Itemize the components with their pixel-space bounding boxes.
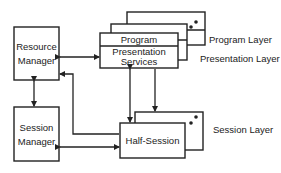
resource-manager-label: Resource Manager	[14, 41, 59, 66]
presentation-layer-label: Presentation Layer	[200, 53, 280, 64]
diagram-canvas	[0, 0, 281, 173]
dot-icon	[189, 121, 193, 125]
session-manager-label: Session Manager	[14, 122, 59, 147]
dot-icon	[194, 20, 198, 24]
presentation-services-line2: Services	[100, 57, 178, 67]
program-layer-label: Program Layer	[209, 34, 272, 45]
program-label: Program	[100, 34, 178, 45]
arrow-hs-rm	[60, 74, 119, 134]
half-session-label: Half-Session	[120, 135, 185, 146]
resource-manager-line1: Resource	[14, 41, 59, 52]
resource-manager-line2: Manager	[14, 55, 59, 66]
session-layer-label: Session Layer	[213, 124, 273, 135]
dot-icon	[194, 115, 198, 119]
dot-icon	[189, 25, 193, 29]
session-manager-line1: Session	[14, 122, 59, 133]
session-manager-line2: Manager	[14, 136, 59, 147]
presentation-services-label: Presentation Services	[100, 47, 178, 66]
